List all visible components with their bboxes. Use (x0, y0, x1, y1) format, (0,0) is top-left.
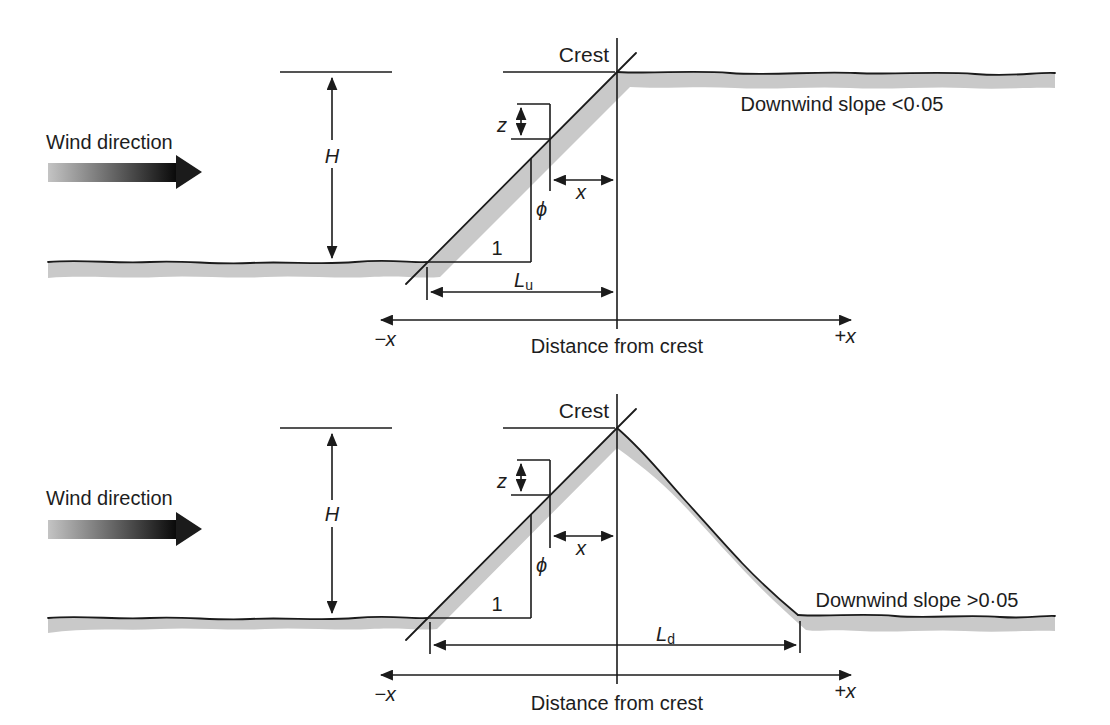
terrain-diagram: H Wind direction z x ϕ 1 Lu Crest Downwi… (0, 0, 1110, 725)
bottom-panel: H Wind direction z x ϕ 1 Ld Crest Downwi… (46, 394, 1055, 714)
wind-arrow-icon (48, 512, 202, 546)
z-label: z (496, 470, 507, 492)
downwind-slope-note: Downwind slope >0·05 (816, 589, 1019, 611)
crest-label: Crest (559, 399, 609, 422)
ld-label: Ld (656, 623, 675, 647)
figure-page: H Wind direction z x ϕ 1 Lu Crest Downwi… (0, 0, 1110, 725)
wind-arrow-icon (48, 155, 202, 189)
top-panel: H Wind direction z x ϕ 1 Lu Crest Downwi… (46, 38, 1055, 357)
wind-direction-label: Wind direction (46, 487, 173, 509)
height-label: H (325, 145, 340, 167)
axis-negative-label: −x (374, 328, 397, 350)
unit-run-label: 1 (491, 237, 502, 259)
x-label: x (575, 181, 587, 203)
axis-negative-label: −x (374, 683, 397, 705)
lu-label: Lu (514, 269, 533, 293)
unit-run-label: 1 (491, 593, 502, 615)
axis-positive-label: +x (834, 680, 857, 702)
slope-line (406, 53, 636, 284)
z-label: z (496, 114, 507, 136)
wind-direction-label: Wind direction (46, 131, 173, 153)
axis-title: Distance from crest (531, 692, 704, 714)
upwind-slope-line (406, 409, 636, 640)
downwind-slope-note: Downwind slope <0·05 (741, 93, 944, 115)
axis-title: Distance from crest (531, 335, 704, 357)
phi-label: ϕ (536, 198, 547, 220)
crest-label: Crest (559, 43, 609, 66)
height-label: H (325, 503, 340, 525)
axis-positive-label: +x (834, 325, 857, 347)
phi-label: ϕ (536, 554, 547, 576)
x-label: x (575, 537, 587, 559)
